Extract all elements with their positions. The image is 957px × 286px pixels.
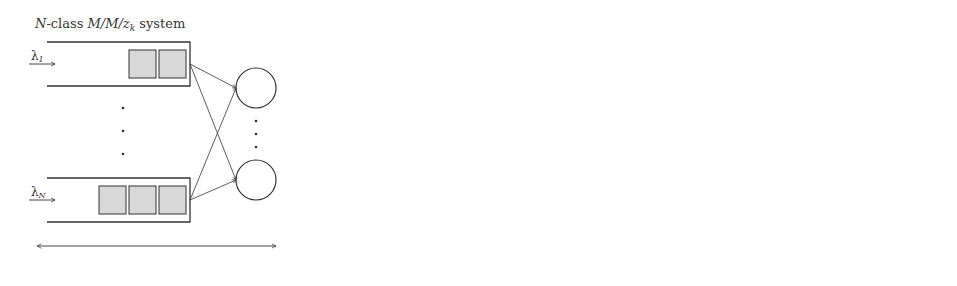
ellipsis-dot [122,107,125,110]
job-box [159,186,186,214]
arrival-rate-label: λ1 [31,49,44,64]
server-icon [236,68,276,108]
queue-class-n: λN [29,178,190,222]
arrival-rate-label: λN [31,185,47,200]
ellipsis-dot [255,120,258,123]
job-box [159,50,186,78]
routing-line [190,64,236,88]
ellipsis-dot [122,130,125,133]
server-icon [236,160,276,200]
queueing-decomposition-diagram: N-class M/M/zk systemλ1λN [0,0,957,286]
job-box [99,186,126,214]
ellipsis-dot [255,146,258,149]
job-box [129,186,156,214]
job-box [129,50,156,78]
routing-line [190,64,236,180]
ellipsis-dot [255,133,258,136]
queue-class-1: λ1 [29,42,190,86]
original-system-title: N-class M/M/zk system [34,16,185,33]
ellipsis-dot [122,153,125,156]
